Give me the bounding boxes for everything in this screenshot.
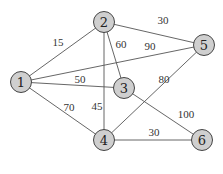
edge-weight-4-5: 80 xyxy=(159,73,171,85)
edge-1-3 xyxy=(21,82,124,88)
node-4: 4 xyxy=(94,130,115,151)
node-2: 2 xyxy=(94,12,115,33)
node-label: 1 xyxy=(17,75,25,90)
edge-weight-1-2: 15 xyxy=(53,36,65,48)
edges-layer xyxy=(21,22,204,140)
edge-weight-1-3: 50 xyxy=(75,73,87,85)
node-label: 2 xyxy=(100,15,108,30)
nodes-layer: 123456 xyxy=(11,12,215,151)
node-label: 5 xyxy=(200,38,208,53)
edge-weight-3-6: 100 xyxy=(178,108,195,120)
edge-1-2 xyxy=(21,22,104,82)
graph-diagram: 153060905080704510030 123456 xyxy=(0,0,223,174)
edge-weight-4-6: 30 xyxy=(149,126,161,138)
node-3: 3 xyxy=(114,78,135,99)
node-label: 4 xyxy=(100,133,108,148)
edge-weight-2-3: 60 xyxy=(116,38,128,50)
node-1: 1 xyxy=(11,72,32,93)
edge-weight-1-4: 70 xyxy=(64,101,76,113)
edge-weight-1-5: 90 xyxy=(145,40,157,52)
node-5: 5 xyxy=(194,35,215,56)
edge-weight-2-4: 45 xyxy=(92,100,104,112)
node-label: 6 xyxy=(198,133,206,148)
node-6: 6 xyxy=(192,130,213,151)
node-label: 3 xyxy=(120,81,128,96)
edge-weight-2-5: 30 xyxy=(158,14,170,26)
